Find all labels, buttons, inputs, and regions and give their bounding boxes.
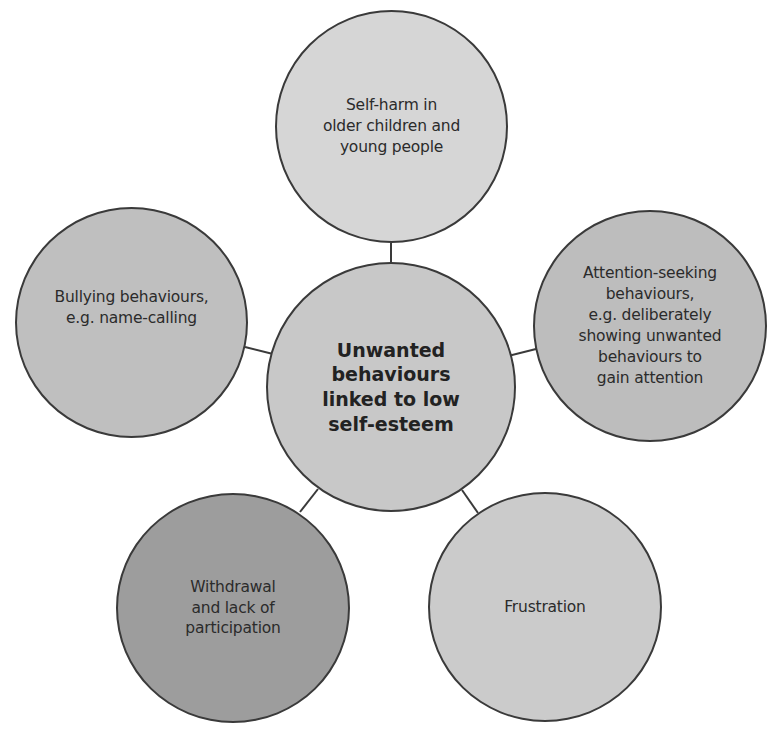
node-attention-seeking-label: Attention-seeking behaviours, e.g. delib… [579,263,722,389]
connector-frustration [462,490,478,513]
node-attention-seeking: Attention-seeking behaviours, e.g. delib… [533,210,767,442]
node-center-label: Unwanted behaviours linked to low self-e… [322,338,460,437]
node-self-harm: Self-harm in older children and young pe… [275,10,508,243]
connector-bullying [245,347,273,354]
connector-attention-seeking [508,349,536,356]
node-self-harm-label: Self-harm in older children and young pe… [323,95,460,158]
node-frustration-label: Frustration [504,597,586,618]
node-withdrawal: Withdrawal and lack of participation [116,493,350,723]
node-bullying: Bullying behaviours, e.g. name-calling [15,207,248,438]
node-center: Unwanted behaviours linked to low self-e… [266,262,516,512]
connector-withdrawal [300,489,318,512]
node-withdrawal-label: Withdrawal and lack of participation [185,577,280,640]
node-bullying-label: Bullying behaviours, e.g. name-calling [55,287,209,329]
node-frustration: Frustration [428,492,662,722]
